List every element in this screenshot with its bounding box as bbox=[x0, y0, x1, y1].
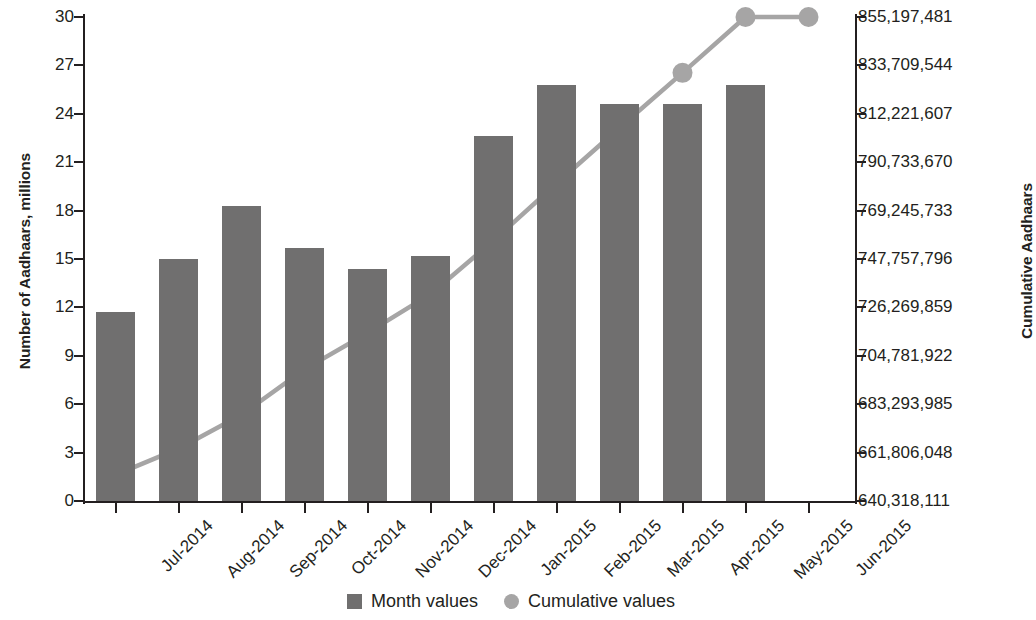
y-axis-right-tick-mark bbox=[857, 452, 866, 454]
x-axis-tick-label: May-2015 bbox=[790, 516, 858, 584]
y-axis-left-tick-mark bbox=[74, 64, 83, 66]
legend-item-cumulative-values: Cumulative values bbox=[504, 591, 675, 612]
x-axis-tick-mark bbox=[115, 503, 117, 513]
x-axis-tick-mark bbox=[178, 503, 180, 513]
x-axis-tick-mark bbox=[241, 503, 243, 513]
x-axis-tick-label: Jan-2015 bbox=[536, 516, 600, 580]
y-axis-right-tick-mark bbox=[857, 64, 866, 66]
x-axis-tick-mark bbox=[430, 503, 432, 513]
y-axis-left-tick-mark bbox=[74, 210, 83, 212]
x-axis-tick-mark bbox=[304, 503, 306, 513]
x-axis-tick-label: Oct-2014 bbox=[347, 516, 411, 580]
x-axis-tick-label: Dec-2014 bbox=[474, 516, 540, 582]
y-axis-left-tick-mark bbox=[74, 355, 83, 357]
legend-label-month-values: Month values bbox=[371, 591, 478, 612]
x-axis-tick-mark bbox=[682, 503, 684, 513]
y-axis-right-tick-mark bbox=[857, 113, 866, 115]
legend-circle-icon bbox=[504, 594, 519, 609]
y-axis-left-tick-mark bbox=[74, 161, 83, 163]
x-axis-tick-label: Feb-2015 bbox=[600, 516, 666, 582]
y-axis-left-tick-mark bbox=[74, 16, 83, 18]
y-axis-left-tick-mark bbox=[74, 306, 83, 308]
x-axis-tick-mark bbox=[745, 503, 747, 513]
y-axis-left-tick-mark bbox=[74, 452, 83, 454]
x-axis-tick-label: Aug-2014 bbox=[222, 516, 288, 582]
chart-legend: Month values Cumulative values bbox=[0, 591, 1022, 612]
x-axis-tick-label: Nov-2014 bbox=[411, 516, 477, 582]
legend-label-cumulative-values: Cumulative values bbox=[528, 591, 675, 612]
y-axis-right-tick-mark bbox=[857, 16, 866, 18]
x-axis-tick-mark bbox=[367, 503, 369, 513]
y-axis-right-tick-mark bbox=[857, 306, 866, 308]
x-axis-tick-label: Mar-2015 bbox=[663, 516, 729, 582]
x-axis-tick-label: Jul-2014 bbox=[157, 516, 217, 576]
y-axis-right-tick-mark bbox=[857, 161, 866, 163]
x-axis-tick-mark bbox=[619, 503, 621, 513]
y-axis-left-tick-mark bbox=[74, 258, 83, 260]
y-axis-right-tick-mark bbox=[857, 403, 866, 405]
x-axis-tick-label: Sep-2014 bbox=[285, 516, 351, 582]
legend-square-icon bbox=[347, 594, 362, 609]
y-axis-right-tick-mark bbox=[857, 210, 866, 212]
x-axis-tick-mark bbox=[493, 503, 495, 513]
y-axis-right-tick-mark bbox=[857, 355, 866, 357]
x-axis-tick-label: Apr-2015 bbox=[725, 516, 789, 580]
x-axis-tick-mark bbox=[808, 503, 810, 513]
y-axis-right-tick-mark bbox=[857, 258, 866, 260]
x-axis-tick-mark bbox=[556, 503, 558, 513]
y-axis-left-tick-mark bbox=[74, 403, 83, 405]
x-axis-tick-label: Jun-2015 bbox=[851, 516, 915, 580]
y-axis-left-tick-mark bbox=[74, 113, 83, 115]
legend-item-month-values: Month values bbox=[347, 591, 478, 612]
y-axis-left-tick-mark bbox=[74, 500, 83, 502]
y-axis-right-tick-mark bbox=[857, 500, 866, 502]
